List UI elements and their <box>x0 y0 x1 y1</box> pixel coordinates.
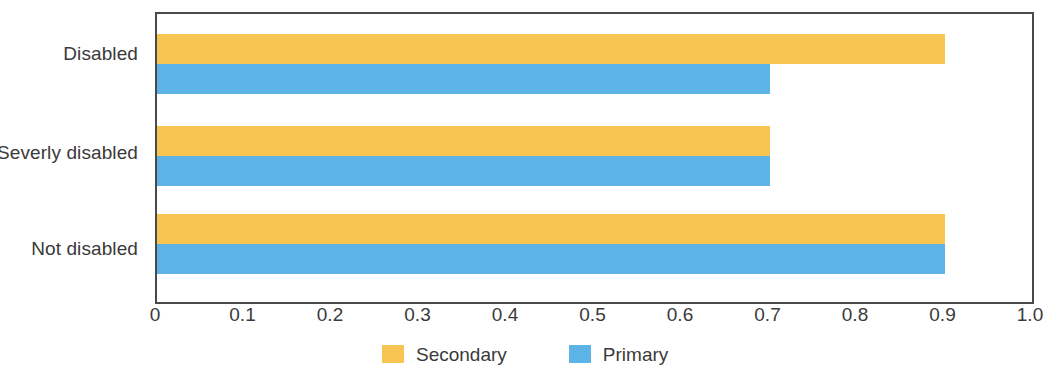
bar-primary-disabled <box>157 64 770 94</box>
x-axis-tick-labels: 00.10.20.30.40.50.60.70.80.91.0 <box>155 304 1030 330</box>
x-tick-label-0: 0 <box>150 304 161 326</box>
legend-swatch-secondary-icon <box>382 345 404 363</box>
x-tick-label-7: 0.7 <box>754 304 780 326</box>
bar-secondary-not-disabled <box>157 214 945 244</box>
legend-item-secondary: Secondary <box>382 345 507 364</box>
bar-secondary-disabled <box>157 34 945 64</box>
x-tick-label-3: 0.3 <box>404 304 430 326</box>
x-tick-label-10: 1.0 <box>1017 304 1043 326</box>
x-tick-label-9: 0.9 <box>929 304 955 326</box>
category-label-disabled: Disabled <box>63 44 138 63</box>
x-tick-label-2: 0.2 <box>317 304 343 326</box>
category-label-severly-disabled: Severly disabled <box>0 143 138 162</box>
chart-legend: Secondary Primary <box>382 342 668 366</box>
bar-secondary-severly-disabled <box>157 126 770 156</box>
category-label-not-disabled: Not disabled <box>31 239 138 258</box>
x-tick-label-8: 0.8 <box>842 304 868 326</box>
bar-primary-not-disabled <box>157 244 945 274</box>
legend-swatch-primary-icon <box>569 345 591 363</box>
legend-item-primary: Primary <box>569 345 668 364</box>
bar-primary-severly-disabled <box>157 156 770 186</box>
x-tick-label-1: 0.1 <box>229 304 255 326</box>
legend-label-secondary: Secondary <box>416 345 507 364</box>
plot-area <box>155 12 1034 304</box>
x-tick-label-5: 0.5 <box>579 304 605 326</box>
y-axis-category-labels: Disabled Severly disabled Not disabled <box>0 0 146 300</box>
bars-container <box>157 14 1032 302</box>
x-tick-label-4: 0.4 <box>492 304 518 326</box>
x-tick-label-6: 0.6 <box>667 304 693 326</box>
legend-label-primary: Primary <box>603 345 668 364</box>
